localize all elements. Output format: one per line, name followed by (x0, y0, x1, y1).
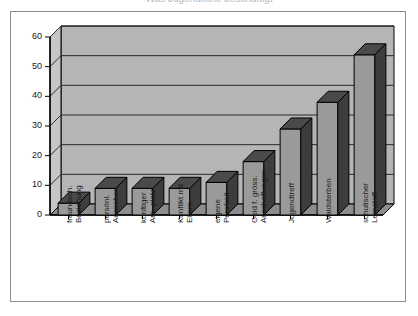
bar-7 (280, 118, 312, 215)
y-tick-label-30: 30 (18, 120, 42, 130)
x-category-label-6: Geld f. gröss.Anschaffungen (250, 170, 268, 223)
bar-chart-graphic (11, 12, 407, 303)
y-tick-label-10: 10 (18, 179, 42, 189)
x-category-label-9-line-2: Lernstoff (370, 183, 379, 223)
bar-side-8 (338, 91, 349, 215)
x-category-label-1: freundsch.Beziehung (65, 185, 83, 223)
x-category-label-2-line-2: Aussehen (111, 187, 120, 223)
chart-image: Was Jugendliche beschäftigt 010203040506… (0, 0, 418, 316)
x-category-label-3-line-1: künftiger (139, 189, 148, 223)
x-category-label-9-line-1: schulischer (361, 183, 370, 223)
x-category-label-1-line-1: freundsch. (65, 185, 74, 223)
bar-side-7 (301, 118, 312, 215)
x-category-label-9: schulischerLernstoff (361, 183, 379, 223)
y-tick-label-20: 20 (18, 150, 42, 160)
x-category-label-1-line-2: Beziehung (74, 185, 83, 223)
x-category-label-5-line-2: Pers'keit (222, 193, 231, 223)
x-category-label-6-line-2: Anschaffungen (259, 170, 268, 223)
title-text: Was Jugendliche beschäftigt (0, 0, 418, 4)
x-category-label-4: Konflikt mitEltern (176, 184, 194, 223)
y-tick-label-0: 0 (18, 209, 42, 219)
plot-area: 0102030405060 freundsch.Beziehungpersönl… (11, 12, 407, 303)
x-category-label-4-line-1: Konflikt mit (176, 184, 185, 223)
bar-8 (317, 91, 349, 215)
y-tick-label-60: 60 (18, 31, 42, 41)
x-category-label-7-line-1: Jugendtreff (287, 183, 296, 223)
y-tick-label-50: 50 (18, 61, 42, 71)
x-category-label-3-line-2: Arb.-platz (148, 189, 157, 223)
x-category-label-2-line-1: persönl. (102, 187, 111, 223)
x-category-label-5-line-1: eigene (213, 193, 222, 223)
x-category-label-7: Jugendtreff (287, 183, 296, 223)
x-category-label-5: eigenePers'keit (213, 193, 231, 223)
x-category-label-2: persönl.Aussehen (102, 187, 120, 223)
y-tick-label-40: 40 (18, 90, 42, 100)
x-category-label-3: künftigerArb.-platz (139, 189, 157, 223)
x-category-label-6-line-1: Geld f. gröss. (250, 170, 259, 223)
x-category-label-8-line-1: Waldsterben (324, 178, 333, 223)
x-category-label-8: Waldsterben (324, 178, 333, 223)
x-category-label-4-line-2: Eltern (185, 184, 194, 223)
chart-frame: 0102030405060 freundsch.Beziehungpersönl… (10, 11, 406, 302)
cropped-title: Was Jugendliche beschäftigt (0, 0, 418, 9)
